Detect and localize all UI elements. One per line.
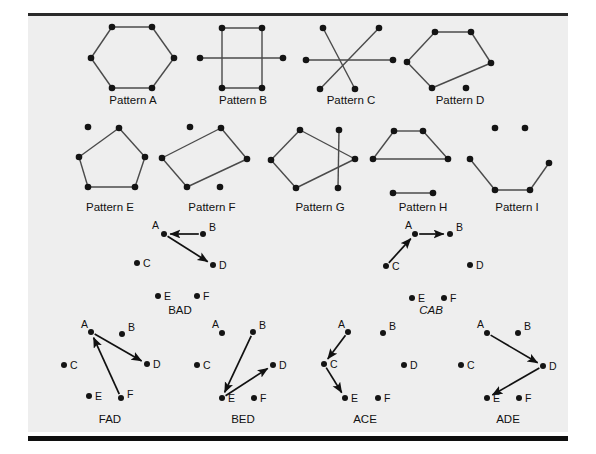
pattern-group-pattern-b: Pattern B [197,25,287,106]
pattern-node [219,85,226,92]
diagram-node-f [251,395,257,401]
diagram-node-a [161,231,167,237]
pattern-node [376,25,383,32]
pattern-node [463,85,470,92]
diagram-node-a [484,330,490,336]
diagram-node-c [458,362,464,368]
diagram-node-f [375,395,381,401]
pattern-node [429,85,436,92]
arrow-diagrams-layer: ABCDEFBADABCDEFCABABCDEFFADABCDEFBEDABCD… [61,219,557,425]
pattern-node [391,128,398,135]
diagram-node-f [194,293,200,299]
pattern-node [218,125,225,132]
diagram-node-b [119,331,125,337]
pattern-node [445,156,452,163]
pattern-edge [162,128,221,158]
diagram-node-d [270,362,276,368]
diagram-node-label-c: C [70,359,78,371]
pattern-node [259,25,266,32]
pattern-edge [91,58,112,88]
pattern-node [132,184,139,191]
pattern-node [293,185,300,192]
diagram-node-label-b: B [389,320,396,332]
diagram-node-label-f: F [384,392,390,404]
pattern-edge [271,130,300,160]
diagram-group-bed: ABCDEFBED [194,318,287,425]
diagram-node-label-a: A [405,219,412,231]
pattern-node [109,85,116,92]
diagram-node-e [219,395,225,401]
pattern-caption: Pattern H [399,201,448,213]
pattern-caption: Pattern A [109,94,157,106]
diagram-node-d [144,361,150,367]
pattern-node [320,25,327,32]
diagram-node-c [321,361,327,367]
pattern-edge [300,130,355,159]
pattern-edge [187,159,247,187]
pattern-node [297,127,304,134]
diagram-node-label-a: A [338,318,345,330]
diagram-node-label-e: E [351,392,358,404]
pattern-node [187,124,194,131]
diagram-node-label-b: B [128,321,135,333]
diagram-node-b [515,330,521,336]
diagram-caption: CAB [419,304,443,316]
pattern-edge [271,160,296,188]
pattern-group-pattern-g: Pattern G [268,127,359,213]
pattern-node [159,155,166,162]
patterns-layer: Pattern APattern BPattern CPattern DPatt… [76,24,553,213]
arrow-A-to-D [168,236,208,261]
diagram-node-label-e: E [164,290,171,302]
diagram-node-label-e: E [95,390,102,402]
pattern-node [335,185,342,192]
pattern-caption: Pattern B [219,94,267,106]
pattern-caption: Pattern G [295,201,344,213]
pattern-edge [152,27,174,58]
pattern-edge [373,131,394,159]
diagram-caption: ACE [353,413,377,425]
diagram-node-label-b: B [209,221,216,233]
diagram-node-label-d: D [219,259,227,271]
diagram-caption: ADE [496,413,520,425]
pattern-edge [79,157,88,187]
pattern-edge [530,163,549,190]
pattern-node [184,184,191,191]
diagram-node-b [250,329,256,335]
diagram-node-a [219,330,225,336]
diagram-node-label-a: A [81,318,88,330]
diagram-node-f [516,395,522,401]
diagram-node-label-d: D [549,360,557,372]
diagram-node-label-f: F [450,292,456,304]
pattern-group-pattern-c: Pattern C [303,25,397,106]
pattern-node [116,125,123,132]
diagram-caption: FAD [99,413,121,425]
pattern-edge [423,131,448,159]
diagram-node-d [540,363,546,369]
diagram-node-label-f: F [260,392,266,404]
diagram-node-label-f: F [525,392,531,404]
pattern-edge [432,63,491,88]
diagram-node-label-c: C [203,359,211,371]
diagram-node-e [155,293,161,299]
diagram-node-a [345,329,351,335]
pattern-group-pattern-a: Pattern A [88,24,178,106]
pattern-node [171,55,178,62]
diagram-node-label-e: E [493,392,500,404]
diagram-node-b [447,231,453,237]
diagram-caption: BED [231,413,255,425]
pattern-caption: Pattern I [495,201,538,213]
pattern-group-pattern-h: Pattern H [370,128,452,213]
pattern-caption: Pattern D [436,94,485,106]
pattern-edge [79,128,119,157]
pattern-edge [296,159,355,188]
pattern-node [317,86,324,93]
pattern-node [467,156,474,163]
pattern-node [468,29,475,36]
diagram-node-label-a: A [212,318,219,330]
pattern-edge [338,130,339,188]
diagram-node-label-c: C [330,358,338,370]
pattern-node [390,57,397,64]
diagram-node-label-b: B [524,320,531,332]
diagram-node-label-d: D [279,359,287,371]
pattern-node [522,125,529,132]
